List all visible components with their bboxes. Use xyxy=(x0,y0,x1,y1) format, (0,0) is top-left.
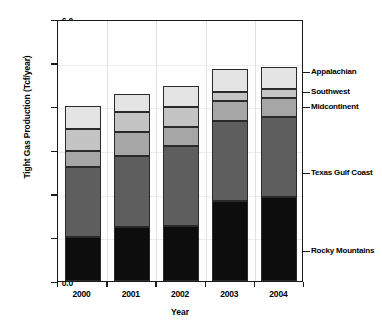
bar-segment xyxy=(65,167,101,237)
bar-segment xyxy=(114,112,150,132)
bar-segment xyxy=(261,98,297,117)
bar-segment xyxy=(65,237,101,281)
bar-segment xyxy=(114,94,150,112)
x-tick-mark xyxy=(254,282,255,287)
legend-label-rocky-mountains: Rocky Mountains xyxy=(311,246,374,255)
bar-segment xyxy=(261,67,297,89)
bar-segment xyxy=(212,121,248,201)
legend-leader-appalachian xyxy=(303,72,310,73)
bar-segment xyxy=(114,132,150,156)
bar-segment xyxy=(163,86,199,107)
x-axis-label: Year xyxy=(57,307,303,317)
x-tick-mark xyxy=(155,282,156,287)
bar-2001 xyxy=(114,19,150,281)
legend-leader-rocky-mountains xyxy=(303,251,310,252)
bar-2003 xyxy=(212,19,248,281)
legend-label-midcontinent: Midcontinent xyxy=(311,102,358,111)
bar-2002 xyxy=(163,19,199,281)
bar-segment xyxy=(261,117,297,197)
bar-segment xyxy=(65,106,101,129)
legend-leader-southwest xyxy=(303,92,310,93)
bar-2004 xyxy=(261,19,297,281)
bar-segment xyxy=(65,151,101,167)
legend-label-appalachian: Appalachian xyxy=(311,67,356,76)
bar-segment xyxy=(163,226,199,281)
bar-segment xyxy=(114,156,150,227)
vertical-gridline xyxy=(206,21,207,281)
legend-leader-midcontinent xyxy=(303,107,310,108)
bar-segment xyxy=(163,127,199,145)
stacked-bar-chart: Tight Gas Production (Tcf/year) 0.01.02.… xyxy=(0,0,382,333)
legend-leader-texas-gulf-coast xyxy=(303,173,310,174)
bar-2000 xyxy=(65,19,101,281)
bar-segment xyxy=(65,129,101,151)
x-tick-mark xyxy=(106,282,107,287)
plot-area xyxy=(57,20,303,282)
bar-segment xyxy=(212,92,248,100)
bar-segment xyxy=(114,227,150,281)
bar-segment xyxy=(163,146,199,226)
x-tick-mark xyxy=(303,282,304,287)
vertical-gridline xyxy=(156,21,157,281)
bar-segment xyxy=(212,69,248,92)
bar-segment xyxy=(212,201,248,281)
bar-segment xyxy=(163,107,199,127)
bar-segment xyxy=(261,89,297,99)
vertical-gridline xyxy=(107,21,108,281)
x-tick-mark xyxy=(57,282,58,287)
legend-label-southwest: Southwest xyxy=(311,87,350,96)
x-tick-mark xyxy=(205,282,206,287)
legend-label-texas-gulf-coast: Texas Gulf Coast xyxy=(311,168,373,177)
x-tick-label-2004: 2004 xyxy=(248,289,308,299)
vertical-gridline xyxy=(255,21,256,281)
bar-segment xyxy=(261,197,297,281)
bar-segment xyxy=(212,101,248,121)
y-axis-label: Tight Gas Production (Tcf/year) xyxy=(22,32,32,202)
